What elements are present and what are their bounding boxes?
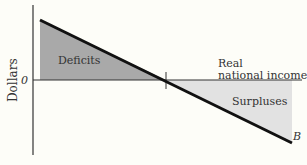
y-axis-label: Dollars <box>6 58 20 102</box>
surpluses-label: Surpluses <box>232 95 288 108</box>
zero-label: 0 <box>21 74 28 87</box>
budget-diagram: 0 Dollars Deficits Real national income … <box>0 0 307 165</box>
x-axis-label-line2: national income <box>218 69 307 82</box>
line-b-label: B <box>292 130 301 143</box>
deficits-label: Deficits <box>58 54 101 67</box>
